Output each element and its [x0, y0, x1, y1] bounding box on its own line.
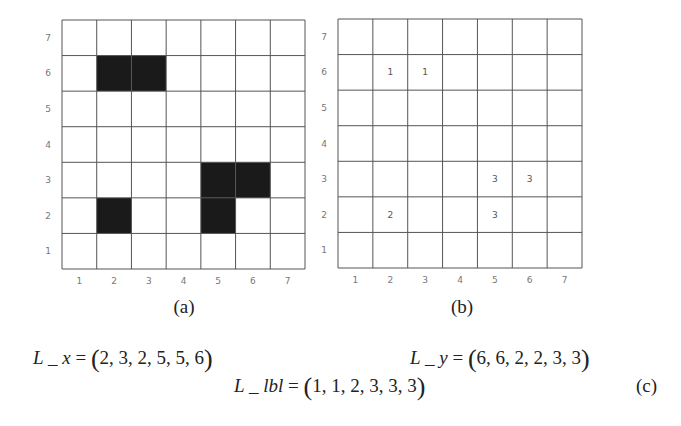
- eq-llbl-equals: =: [283, 375, 303, 396]
- y-tick-label: 2: [45, 211, 51, 221]
- eq-llbl-close: ): [417, 372, 426, 401]
- equation-l-x: L _ x = (2, 3, 2, 5, 5, 6): [33, 344, 213, 374]
- y-tick-label: 3: [321, 174, 327, 184]
- eq-lx-values: 2, 3, 2, 5, 5, 6: [100, 347, 205, 368]
- y-tick-label: 4: [321, 139, 327, 149]
- eq-ly-values: 6, 6, 2, 2, 3, 3: [477, 347, 582, 368]
- x-tick-label: 4: [457, 275, 463, 285]
- eq-llbl-values: 1, 1, 2, 3, 3, 3: [312, 375, 417, 396]
- eq-ly-open: (: [468, 344, 477, 373]
- grid-svg: 112333: [338, 19, 582, 268]
- filled-cell: [201, 198, 236, 234]
- eq-ly-var: L _ y: [410, 347, 448, 368]
- x-tick-label: 4: [181, 276, 187, 286]
- eq-lx-open: (: [91, 344, 100, 373]
- x-tick-label: 7: [285, 276, 291, 286]
- x-tick-label: 6: [527, 275, 533, 285]
- filled-cell: [131, 56, 166, 92]
- filled-cell: [97, 56, 132, 92]
- eq-lx-close: ): [204, 344, 213, 373]
- x-tick-label: 5: [492, 275, 498, 285]
- y-tick-label: 5: [45, 104, 51, 114]
- y-tick-label: 2: [321, 210, 327, 220]
- cell-label: 1: [387, 67, 393, 77]
- x-tick-label: 6: [250, 276, 256, 286]
- y-tick-label: 3: [45, 175, 51, 185]
- x-tick-label: 7: [562, 275, 568, 285]
- cell-label: 3: [527, 174, 533, 184]
- caption-b: (b): [451, 296, 473, 318]
- cell-label: 3: [492, 210, 498, 220]
- x-tick-label: 1: [76, 276, 82, 286]
- x-tick-label: 2: [387, 275, 393, 285]
- y-tick-label: 4: [45, 140, 51, 150]
- y-tick-label: 6: [321, 67, 327, 77]
- y-tick-label: 1: [321, 245, 327, 255]
- caption-a: (a): [173, 296, 194, 318]
- y-tick-label: 1: [45, 246, 51, 256]
- filled-cell: [97, 198, 132, 234]
- caption-c: (c): [636, 375, 657, 397]
- x-tick-label: 2: [111, 276, 117, 286]
- y-tick-label: 7: [321, 32, 327, 42]
- x-tick-label: 1: [353, 275, 359, 285]
- cell-label: 2: [387, 210, 393, 220]
- eq-llbl-var: L _ lbl: [234, 375, 283, 396]
- y-tick-label: 6: [45, 68, 51, 78]
- equation-l-y: L _ y = (6, 6, 2, 2, 3, 3): [410, 344, 590, 374]
- filled-cell: [201, 162, 236, 198]
- y-tick-label: 7: [45, 33, 51, 43]
- filled-cell: [236, 162, 271, 198]
- x-tick-label: 3: [146, 276, 152, 286]
- cell-label: 3: [492, 174, 498, 184]
- grid-svg: [62, 20, 305, 269]
- cell-label: 1: [422, 67, 428, 77]
- eq-ly-close: ): [581, 344, 590, 373]
- eq-lx-var: L _ x: [33, 347, 71, 368]
- binary-image-grid: 12345671234567: [62, 20, 305, 269]
- eq-lx-equals: =: [71, 347, 91, 368]
- equation-l-lbl: L _ lbl = (1, 1, 2, 3, 3, 3): [234, 372, 425, 402]
- labeled-image-grid: 11233312345671234567: [338, 19, 582, 268]
- y-tick-label: 5: [321, 103, 327, 113]
- x-tick-label: 5: [215, 276, 221, 286]
- eq-llbl-open: (: [304, 372, 313, 401]
- eq-ly-equals: =: [448, 347, 468, 368]
- x-tick-label: 3: [422, 275, 428, 285]
